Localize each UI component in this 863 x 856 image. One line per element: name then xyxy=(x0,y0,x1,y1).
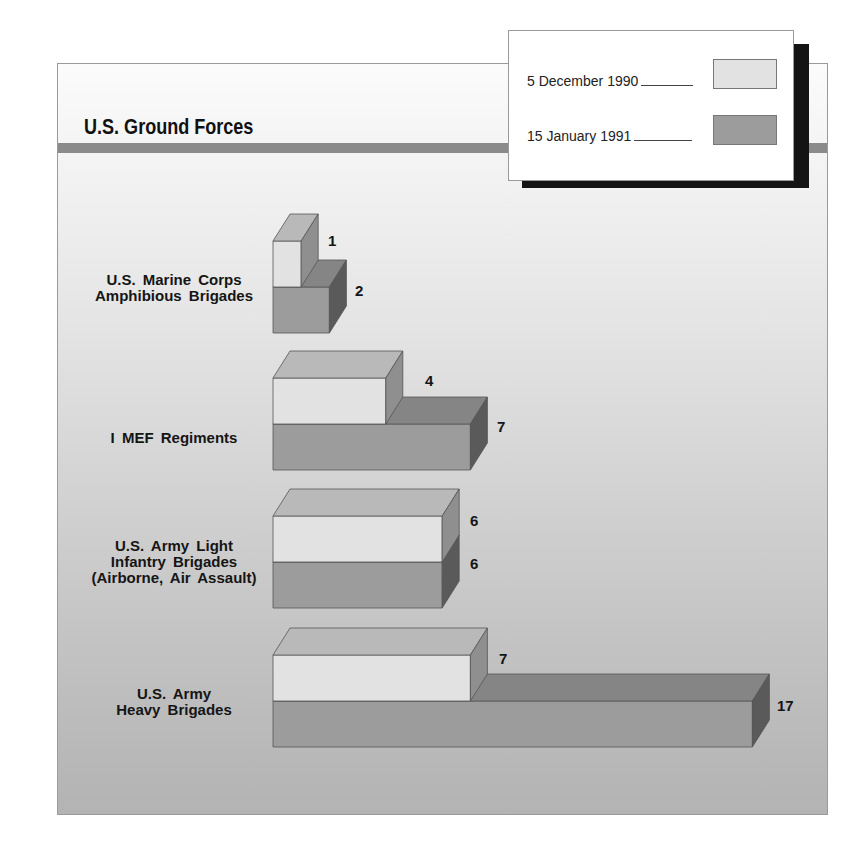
value-label-light-dec: 6 xyxy=(470,512,478,529)
bar-jan-1991-1-front xyxy=(273,424,470,470)
value-label-marine-dec: 1 xyxy=(328,232,336,249)
value-label-mef-dec: 4 xyxy=(425,372,433,389)
value-label-heavy-jan: 17 xyxy=(777,697,794,714)
bar-dec-1990-3-front xyxy=(273,655,470,701)
bar-dec-1990-1-top xyxy=(273,351,403,378)
bar-dec-1990-3-top xyxy=(273,628,487,655)
value-label-heavy-dec: 7 xyxy=(499,650,507,667)
bar-dec-1990-0-front xyxy=(273,241,301,287)
bar-dec-1990-2-top xyxy=(273,489,459,516)
bar-jan-1991-3-front xyxy=(273,701,752,747)
bar-dec-1990-1-front xyxy=(273,378,386,424)
bar-dec-1990-2-front xyxy=(273,516,442,562)
value-label-mef-jan: 7 xyxy=(497,418,505,435)
bar-jan-1991-0-front xyxy=(273,287,329,333)
value-label-light-jan: 6 xyxy=(470,555,478,572)
value-label-marine-jan: 2 xyxy=(355,282,363,299)
bars-canvas xyxy=(0,0,863,856)
bar-jan-1991-2-front xyxy=(273,562,442,608)
bars-group xyxy=(273,214,769,747)
